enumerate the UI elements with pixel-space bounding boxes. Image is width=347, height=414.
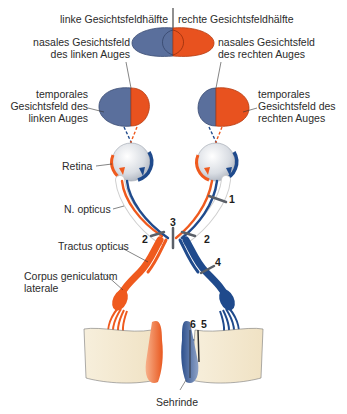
lesion-marker-1: 1 bbox=[229, 193, 235, 205]
sehrinde-label: Sehrinde bbox=[156, 396, 198, 408]
left-eyeball bbox=[112, 143, 152, 181]
left-eye-visual-field bbox=[99, 88, 149, 127]
nasal-right-label: nasales Gesichtsfeld des rechten Auges bbox=[218, 36, 315, 60]
lesion-marker-2-left: 2 bbox=[142, 233, 148, 245]
retina-label: Retina bbox=[62, 160, 92, 172]
lesion-marker-6: 6 bbox=[190, 318, 196, 330]
lesion-marker-5: 5 bbox=[201, 318, 207, 330]
nasal-left-label: nasales Gesichtsfeld des linken Auges bbox=[30, 36, 130, 60]
tractus-opticus-label: Tractus opticus bbox=[58, 240, 129, 252]
corpus-geniculatum-label: Corpus geniculatum laterale bbox=[24, 270, 117, 294]
right-eye-visual-field bbox=[198, 88, 249, 127]
temporal-left-label: temporales Gesichtsfeld des linken Auges bbox=[10, 88, 88, 124]
n-opticus-label: N. opticus bbox=[64, 203, 111, 215]
left-half-label: linke Gesichtsfeldhälfte bbox=[58, 13, 168, 25]
visual-cortex bbox=[84, 321, 263, 390]
lesion-marker-4: 4 bbox=[215, 256, 221, 268]
right-eyeball bbox=[197, 143, 237, 181]
right-optic-nerve bbox=[176, 180, 226, 240]
right-half-label: rechte Gesichtsfeldhälfte bbox=[178, 13, 294, 25]
lesion-marker-2-right: 2 bbox=[204, 233, 210, 245]
combined-visual-field bbox=[132, 28, 214, 57]
visual-pathway-illustration bbox=[0, 0, 347, 414]
left-optic-nerve bbox=[120, 180, 168, 240]
lesion-marker-3: 3 bbox=[170, 216, 176, 228]
temporal-right-label: temporales Gesichtsfeld des rechten Auge… bbox=[258, 88, 336, 124]
